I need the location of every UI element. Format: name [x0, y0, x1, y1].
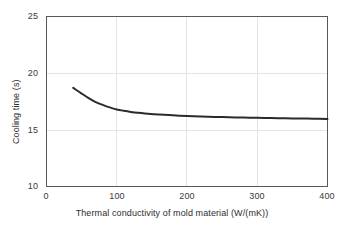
x-axis-title: Thermal conductivity of mold material (W… — [0, 208, 344, 219]
vertical-gridlines — [117, 17, 258, 187]
x-tick-label-400: 400 — [312, 192, 342, 201]
y-tick-label-10: 10 — [14, 182, 38, 191]
x-tick-label-200: 200 — [172, 192, 202, 201]
x-tick-label-300: 300 — [242, 192, 272, 201]
y-axis-title: Cooling time (s) — [11, 79, 22, 144]
cooling-time-curve — [73, 88, 327, 119]
cooling-time-chart-figure: 25 20 15 10 0 100 200 300 400 Thermal co… — [0, 0, 344, 232]
x-tick-label-100: 100 — [102, 192, 132, 201]
y-tick-label-25: 25 — [14, 12, 38, 21]
x-tick-label-0: 0 — [31, 192, 61, 201]
y-tick-label-20: 20 — [14, 69, 38, 78]
